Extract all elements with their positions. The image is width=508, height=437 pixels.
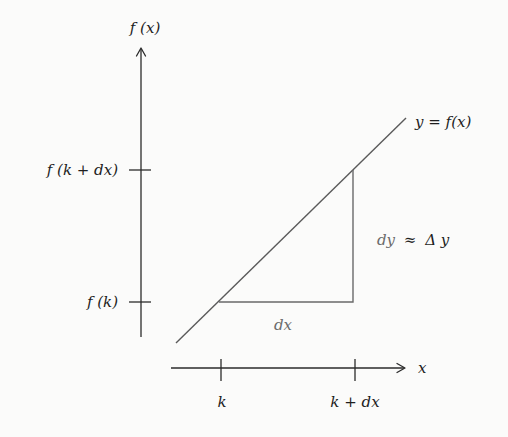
x-tick-label-k-plus-dx: k + dx xyxy=(330,393,380,411)
x-axis: x k k + dx xyxy=(171,359,427,411)
y-axis: f (x) f (k + dx) f (k) xyxy=(46,19,161,337)
x-axis-label: x xyxy=(418,359,427,377)
dy-approx-label: dy ≈ Δ y xyxy=(377,231,450,249)
dy-text: dy xyxy=(377,231,396,249)
y-axis-label: f (x) xyxy=(129,19,161,37)
dx-label: dx xyxy=(274,316,293,334)
differential-triangle: dx dy ≈ Δ y xyxy=(219,170,450,334)
y-tick-label-f-k-plus-dx: f (k + dx) xyxy=(46,161,118,179)
function-label: y = f(x) xyxy=(414,113,471,131)
approx-symbol: ≈ xyxy=(404,231,417,249)
function-line xyxy=(176,118,406,343)
differential-diagram: f (x) f (k + dx) f (k) x k k + dx y = f(… xyxy=(0,0,508,437)
x-tick-label-k: k xyxy=(217,393,226,411)
y-tick-label-f-k: f (k) xyxy=(86,293,118,311)
function-curve: y = f(x) xyxy=(176,113,471,343)
delta-y-text: Δ y xyxy=(424,231,450,249)
